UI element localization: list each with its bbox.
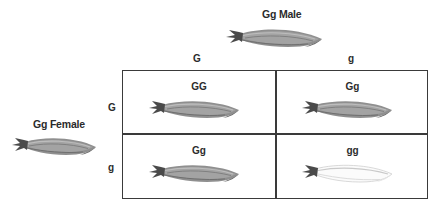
punnett-cell-gg-heterozygous-bottom: Gg (123, 134, 275, 198)
cell-squash-icon (302, 97, 402, 125)
male-parent-squash-icon (226, 25, 332, 51)
female-parent-label: Gg Female (33, 119, 85, 130)
punnett-cell-gg-dominant: GG (123, 71, 275, 133)
column-header-1: g (348, 54, 354, 64)
cell-squash-icon-pale (302, 161, 402, 189)
row-header-1: g (108, 163, 114, 173)
row-header-0: G (108, 103, 116, 113)
female-parent-squash-icon (12, 134, 104, 159)
cell-genotype-label: Gg (276, 81, 429, 92)
cell-genotype-label: Gg (123, 145, 275, 156)
cell-genotype-label: gg (276, 145, 429, 156)
punnett-cell-gg-heterozygous-top: Gg (276, 71, 429, 133)
male-parent-label: Gg Male (262, 9, 301, 20)
cell-genotype-label: GG (123, 81, 275, 92)
punnett-grid: GG Gg (122, 70, 428, 199)
column-header-0: G (193, 54, 201, 64)
punnett-square-diagram: Gg Male Gg Female (0, 0, 440, 206)
cell-squash-icon (149, 161, 249, 189)
punnett-cell-gg-recessive: gg (276, 134, 429, 198)
cell-squash-icon (149, 97, 249, 125)
